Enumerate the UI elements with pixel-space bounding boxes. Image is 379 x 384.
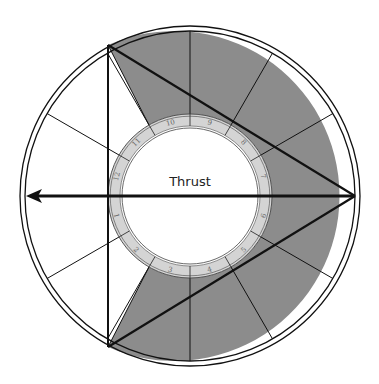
thrust-label: Thrust	[168, 174, 211, 189]
thrust-diagram: 987654321121110 Thrust	[0, 0, 379, 384]
